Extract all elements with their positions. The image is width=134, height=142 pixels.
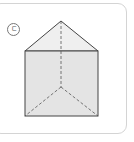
front-face — [25, 51, 98, 116]
top-face — [25, 21, 98, 51]
triangular-prism-diagram — [0, 0, 134, 142]
